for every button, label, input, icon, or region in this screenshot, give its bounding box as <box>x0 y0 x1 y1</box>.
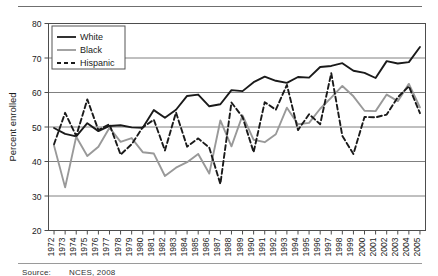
x-tick-label-1978: 1978 <box>113 237 123 256</box>
x-tick-label-2005: 2005 <box>412 237 422 256</box>
x-tick-label-1999: 1999 <box>345 237 355 256</box>
x-tick-label-1980: 1980 <box>135 237 145 256</box>
x-tick-label-2001: 2001 <box>368 237 378 256</box>
chart-legend: WhiteBlackHispanic <box>52 26 125 69</box>
figure-bottom-rule <box>18 263 422 264</box>
x-tick-label-1996: 1996 <box>312 237 322 256</box>
x-tick-label-1976: 1976 <box>90 237 100 256</box>
x-tick-label-1998: 1998 <box>334 237 344 256</box>
x-tick-label-1973: 1973 <box>57 237 67 256</box>
y-tick-label-70: 70 <box>32 54 42 64</box>
x-tick-label-1972: 1972 <box>46 237 56 256</box>
source-label: Source: <box>22 268 51 276</box>
x-tick-label-1982: 1982 <box>157 237 167 256</box>
x-axis-tick-labels: 1972197319741975197619771978197919801981… <box>46 237 422 256</box>
figure-container: 1972197319741975197619771978197919801981… <box>0 0 438 276</box>
x-tick-label-1988: 1988 <box>223 237 233 256</box>
x-tick-label-1992: 1992 <box>268 237 278 256</box>
source-value: NCES, 2008 <box>69 268 115 276</box>
y-axis-label-text: Percent enrolled <box>7 92 18 161</box>
legend-label-hispanic: Hispanic <box>80 58 115 68</box>
x-tick-label-1977: 1977 <box>101 237 111 256</box>
x-tick-label-1979: 1979 <box>124 237 134 256</box>
x-tick-label-1993: 1993 <box>279 237 289 256</box>
x-tick-label-1981: 1981 <box>146 237 156 256</box>
x-tick-label-1994: 1994 <box>290 237 300 256</box>
x-tick-label-1991: 1991 <box>257 237 267 256</box>
x-tick-label-1986: 1986 <box>201 237 211 256</box>
y-tick-label-40: 40 <box>32 157 42 167</box>
y-axis-ticks <box>45 24 49 231</box>
y-tick-label-30: 30 <box>32 192 42 202</box>
y-tick-label-80: 80 <box>32 19 42 29</box>
x-tick-label-1995: 1995 <box>301 237 311 256</box>
x-tick-label-2003: 2003 <box>390 237 400 256</box>
x-tick-label-1985: 1985 <box>190 237 200 256</box>
legend-label-black: Black <box>80 45 103 55</box>
y-tick-label-60: 60 <box>32 88 42 98</box>
x-tick-label-1987: 1987 <box>212 237 222 256</box>
x-axis-ticks <box>54 231 420 235</box>
x-tick-label-1983: 1983 <box>168 237 178 256</box>
source-note: Source:NCES, 2008 <box>22 268 115 276</box>
y-tick-label-50: 50 <box>32 123 42 133</box>
enrollment-line-chart: 1972197319741975197619771978197919801981… <box>0 0 438 276</box>
x-tick-label-1997: 1997 <box>323 237 333 256</box>
x-tick-label-1974: 1974 <box>68 237 78 256</box>
x-tick-label-1984: 1984 <box>179 237 189 256</box>
y-tick-label-20: 20 <box>32 226 42 236</box>
x-tick-label-2002: 2002 <box>379 237 389 256</box>
series-line-black <box>54 84 420 188</box>
legend-label-white: White <box>80 32 103 42</box>
y-axis-tick-labels: 20304050607080 <box>32 19 42 236</box>
x-tick-label-1989: 1989 <box>235 237 245 256</box>
x-tick-label-2000: 2000 <box>357 237 367 256</box>
x-tick-label-1990: 1990 <box>246 237 256 256</box>
x-tick-label-1975: 1975 <box>79 237 89 256</box>
y-axis-title: Percent enrolled <box>7 92 18 161</box>
x-tick-label-2004: 2004 <box>401 237 411 256</box>
